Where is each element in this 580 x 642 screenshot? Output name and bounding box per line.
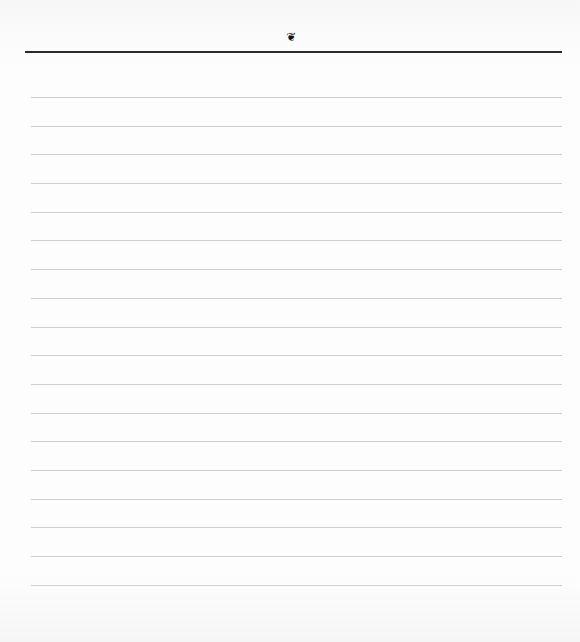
ruled-line [31, 384, 562, 385]
ruled-line [31, 212, 562, 213]
header-rule [25, 51, 562, 53]
ruled-line [31, 441, 562, 442]
ruled-line [31, 97, 562, 98]
ruled-line [31, 413, 562, 414]
ruled-line [31, 298, 562, 299]
ruled-line [31, 154, 562, 155]
ruled-line [31, 240, 562, 241]
ruled-line [31, 556, 562, 557]
ruled-line [31, 183, 562, 184]
ruled-line [31, 355, 562, 356]
ruled-line [31, 499, 562, 500]
ruled-line [31, 470, 562, 471]
ruled-line [31, 126, 562, 127]
fleuron-icon: ❦ [283, 30, 299, 44]
ruled-line [31, 527, 562, 528]
ruled-line [31, 327, 562, 328]
ruled-line [31, 269, 562, 270]
lined-paper-page: ❦ [0, 0, 580, 642]
ruled-line [31, 585, 562, 586]
